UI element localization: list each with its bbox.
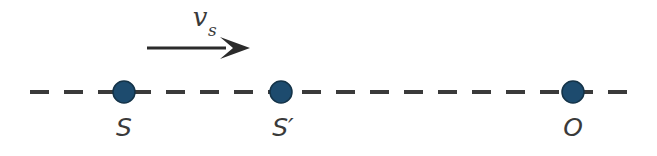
marker-observer-o	[562, 81, 584, 103]
marker-source-s	[113, 81, 135, 103]
marker-observer-o-label: O	[563, 113, 583, 142]
marker-source-s-prime	[270, 81, 292, 103]
velocity-label-subscript-s: s	[208, 20, 217, 40]
marker-source-s-label: S	[116, 113, 132, 142]
marker-source-s-prime-label: S′	[272, 113, 294, 142]
doppler-diagram-figure: v s SS′O	[0, 0, 657, 156]
background-rect	[0, 0, 657, 156]
diagram-canvas: v s SS′O	[0, 0, 657, 156]
velocity-label-v: v	[193, 2, 208, 32]
